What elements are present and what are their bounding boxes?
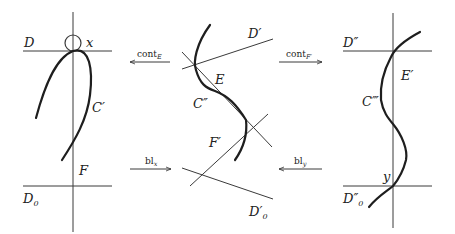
label-D0-main: D: [22, 191, 34, 206]
right-panel: D″ E′ C‴ y D″0: [342, 13, 432, 228]
left-panel: D x C′ F D0: [22, 12, 112, 232]
label-C-double-prime: C″: [193, 96, 208, 111]
arrow-cont-E-label: contE: [137, 49, 162, 61]
label-D0-prime-sub: 0: [262, 212, 267, 221]
label-D0-double-prime: D″0: [342, 191, 363, 208]
label-D0-double-prime-sub: 0: [358, 199, 363, 208]
left-curve-C-prime: [36, 50, 91, 160]
label-D0: D0: [22, 191, 39, 208]
label-F-prime: F′: [208, 135, 221, 150]
label-y: y: [382, 169, 391, 184]
arrow-bl-x-label: blx: [145, 156, 158, 168]
right-curve-C-triple-prime: [369, 32, 420, 207]
arrow-bl-x: blx: [130, 156, 171, 169]
arrow-cont-F: contF′: [279, 49, 322, 62]
arrow-cont-F-label: contF′: [286, 49, 312, 61]
label-F: F: [78, 163, 89, 178]
label-D: D: [23, 35, 35, 50]
label-C-prime: C′: [92, 100, 105, 115]
label-D0-double-prime-main: D″: [342, 191, 358, 206]
blowup-contraction-diagram: D x C′ F D0 D′ E C″ F′ D′0 D″ E′ C‴ y D″…: [0, 0, 455, 234]
label-D-prime: D′: [247, 26, 261, 41]
arrow-cont-E: contE: [130, 49, 170, 62]
label-D0-prime-main: D′: [248, 204, 262, 219]
label-C-triple-prime: C‴: [362, 94, 379, 109]
label-D0-prime: D′0: [248, 204, 267, 221]
arrow-bl-y: bly: [279, 156, 322, 169]
label-D0-sub: 0: [33, 199, 38, 208]
label-x: x: [86, 35, 94, 50]
middle-panel: D′ E C″ F′ D′0: [182, 25, 273, 221]
label-E: E: [214, 72, 225, 87]
label-E-prime: E′: [400, 68, 413, 83]
label-D-double-prime: D″: [342, 35, 358, 50]
middle-line-D0-prime: [182, 168, 273, 199]
arrow-bl-y-label: bly: [294, 156, 307, 168]
